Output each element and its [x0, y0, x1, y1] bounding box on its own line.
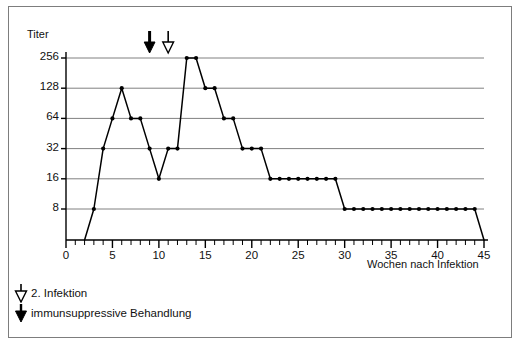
figure-container: Titer Wochen nach Infektion 816326412825…	[0, 0, 521, 352]
x-axis-tick-label: 40	[425, 249, 451, 261]
y-axis-title: Titer	[27, 28, 49, 40]
y-axis-tick-label: 64	[25, 110, 59, 122]
legend-label-immunosuppression: immunsuppressive Behandlung	[31, 307, 191, 319]
hollow-down-arrow-icon	[12, 283, 30, 303]
legend-item-second-infection: 2. Infektion	[12, 283, 87, 303]
x-axis-tick-label: 35	[378, 249, 404, 261]
y-axis-tick-label: 8	[25, 201, 59, 213]
x-axis-tick-label: 45	[471, 249, 497, 261]
x-axis-tick-label: 30	[332, 249, 358, 261]
x-axis-tick-label: 5	[99, 249, 125, 261]
x-axis-tick-label: 15	[192, 249, 218, 261]
legend-label-second-infection: 2. Infektion	[31, 287, 87, 299]
x-axis-tick-label: 20	[239, 249, 265, 261]
y-axis-tick-label: 16	[25, 171, 59, 183]
legend-item-immunosuppression: immunsuppressive Behandlung	[12, 303, 191, 323]
y-axis-tick-label: 32	[25, 141, 59, 153]
filled-down-arrow-icon	[12, 303, 30, 323]
x-axis-tick-label: 10	[146, 249, 172, 261]
y-axis-tick-label: 256	[25, 50, 59, 62]
y-axis-tick-label: 128	[25, 80, 59, 92]
x-axis-tick-label: 0	[53, 249, 79, 261]
x-axis-tick-label: 25	[285, 249, 311, 261]
